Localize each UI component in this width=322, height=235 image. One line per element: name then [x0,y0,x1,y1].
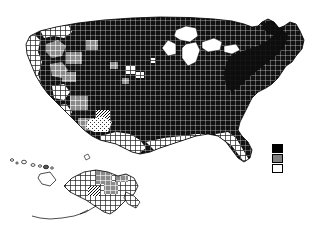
legend [272,144,286,174]
united-states-radon-choropleth [0,0,322,235]
legend-swatch-zone-2-moderate [272,154,283,163]
map-canvas [0,0,322,235]
legend-swatch-zone-3-lowest [272,164,283,173]
radon-map-figure: 미국 환경보호청의 라돈 분포도 [0,0,322,235]
legend-swatch-zone-1-highest [272,144,283,153]
